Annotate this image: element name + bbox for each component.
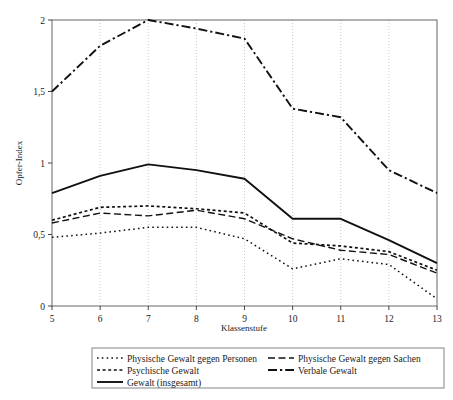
x-tick-label-10: 10: [288, 314, 298, 324]
legend-label-verbale-gewalt: Verbale Gewalt: [298, 366, 357, 376]
x-tick-label-6: 6: [98, 314, 103, 324]
x-tick-label-11: 11: [336, 314, 345, 324]
x-axis-title: Klassenstufe: [221, 323, 267, 333]
x-tick-label-12: 12: [384, 314, 394, 324]
legend-label-psychische-gewalt: Psychische Gewalt: [127, 366, 199, 376]
legend-label-physische-gewalt-gegen-sachen: Physische Gewalt gegen Sachen: [298, 354, 421, 364]
x-tick-label-8: 8: [194, 314, 199, 324]
victim-index-line-chart: 00,511,52 5678910111213 Klassenstufe Opf…: [0, 0, 453, 400]
chart-background: [0, 0, 453, 400]
y-tick-label-0: 0: [40, 302, 45, 312]
y-tick-label-0,5: 0,5: [33, 230, 45, 240]
y-axis-title: Opfer-Index: [14, 140, 24, 185]
y-tick-label-1,5: 1,5: [33, 87, 45, 97]
legend-label-physische-gewalt-gegen-personen: Physische Gewalt gegen Personen: [127, 354, 257, 364]
legend-label-gewalt-insgesamt: Gewalt (insgesamt): [127, 378, 201, 389]
y-tick-label-1: 1: [40, 159, 45, 169]
x-tick-label-13: 13: [432, 314, 442, 324]
x-tick-label-7: 7: [146, 314, 151, 324]
x-tick-label-5: 5: [50, 314, 55, 324]
y-tick-label-2: 2: [40, 16, 45, 26]
